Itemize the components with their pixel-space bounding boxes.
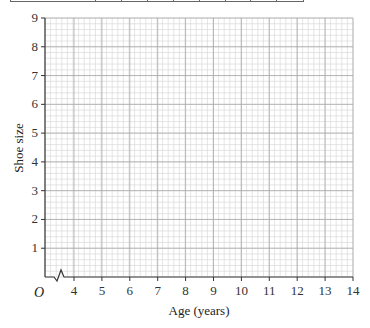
y-tick-label: 6 — [32, 96, 39, 111]
y-tick-label: 8 — [32, 39, 39, 54]
y-axis-title: Shoe size — [11, 123, 26, 173]
axes — [45, 18, 353, 281]
x-tick-label: 12 — [291, 283, 304, 298]
x-tick-label: 9 — [210, 283, 217, 298]
x-tick-label: 8 — [182, 283, 189, 298]
y-tick-label: 3 — [32, 183, 39, 198]
y-tick-label: 1 — [32, 240, 39, 255]
x-tick-label: 7 — [154, 283, 161, 298]
x-axis-with-break — [45, 270, 353, 281]
x-tick-label: 13 — [319, 283, 332, 298]
y-tick-label: 2 — [32, 211, 39, 226]
x-tick-label: 4 — [71, 283, 78, 298]
x-tick-label: 11 — [263, 283, 276, 298]
axis-ticks: 4567891011121314123456789 — [32, 10, 361, 298]
x-tick-label: 5 — [99, 283, 106, 298]
minor-grid — [45, 18, 353, 277]
scatter-graph: 4567891011121314123456789 O Age (years) … — [0, 0, 370, 328]
origin-label: O — [34, 285, 44, 300]
x-axis-title: Age (years) — [169, 303, 230, 318]
x-tick-label: 14 — [347, 283, 361, 298]
y-tick-label: 7 — [32, 68, 39, 83]
x-tick-label: 10 — [235, 283, 248, 298]
y-tick-label: 5 — [32, 125, 39, 140]
y-tick-label: 4 — [32, 154, 39, 169]
y-tick-label: 9 — [32, 10, 39, 25]
x-tick-label: 6 — [127, 283, 134, 298]
major-grid — [45, 18, 353, 277]
